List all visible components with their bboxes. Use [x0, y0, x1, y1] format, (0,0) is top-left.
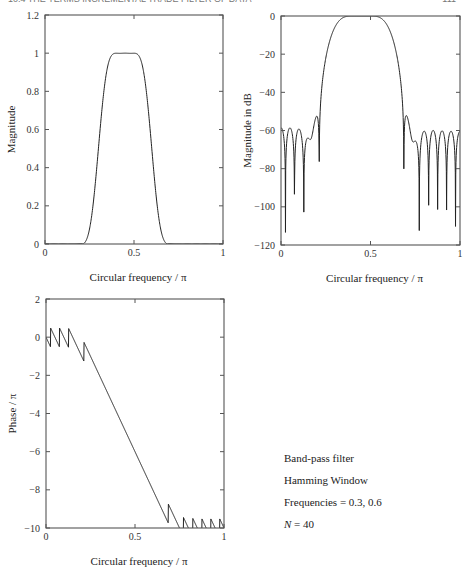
- x-tick-label: 0.5: [128, 247, 141, 258]
- annotation-frequencies: Frequencies = 0.3, 0.6: [284, 496, 382, 508]
- magnitude-y-axis-label: Magnitude: [5, 106, 17, 154]
- y-tick-label: −8: [29, 484, 40, 495]
- y-tick-label: −60: [259, 125, 275, 136]
- magnitude-db-chart: 00.510−20−40−60−80−100−120Circular frequ…: [241, 11, 463, 285]
- annotation-filter-type: Band-pass filter: [284, 452, 354, 464]
- x-tick-label: 1: [221, 247, 226, 258]
- y-tick-label: 0.2: [27, 200, 40, 211]
- y-tick-label: 0: [34, 239, 39, 250]
- phase-plot-frame: [46, 299, 224, 528]
- phase-x-axis-label: Circular frequency / π: [91, 555, 188, 567]
- annotation-order: N = 40: [284, 518, 314, 530]
- y-tick-label: 0.4: [27, 162, 40, 173]
- y-tick-label: −40: [259, 87, 275, 98]
- phase-y-axis-label: Phase / π: [6, 393, 18, 433]
- y-tick-label: −80: [259, 163, 275, 174]
- x-tick-label: 0.5: [129, 531, 142, 542]
- magnitude-curve: [45, 53, 223, 244]
- magnitude-db-x-axis-label: Circular frequency / π: [326, 272, 423, 284]
- figure-canvas: 00.5100.20.40.60.811.2Circular frequency…: [0, 0, 466, 575]
- y-tick-label: 0.6: [27, 124, 40, 135]
- y-tick-label: −2: [29, 370, 40, 381]
- y-tick-label: −120: [254, 240, 275, 251]
- magnitude-chart: 00.5100.20.40.60.811.2Circular frequency…: [5, 10, 226, 284]
- y-tick-label: −6: [29, 446, 40, 457]
- y-tick-label: −10: [24, 523, 40, 534]
- y-tick-label: −20: [259, 49, 275, 60]
- y-tick-label: 0: [270, 11, 275, 22]
- phase-curve: [46, 328, 224, 537]
- magnitude-db-curve: [281, 16, 460, 232]
- x-tick-label: 1: [458, 248, 463, 259]
- annotation-window: Hamming Window: [284, 474, 368, 486]
- y-tick-label: 1: [34, 48, 39, 59]
- y-tick-label: −4: [29, 408, 40, 419]
- phase-chart: 00.5120−2−4−6−8−10Circular frequency / π…: [6, 294, 227, 568]
- magnitude-db-y-axis-label: Magnitude in dB: [241, 93, 253, 168]
- y-tick-label: 1.2: [27, 10, 40, 21]
- magnitude-x-axis-label: Circular frequency / π: [90, 271, 187, 283]
- x-tick-label: 0: [279, 248, 284, 259]
- y-tick-label: −100: [254, 201, 275, 212]
- x-tick-label: 1: [222, 531, 227, 542]
- y-tick-label: 0.8: [27, 86, 40, 97]
- x-tick-label: 0: [43, 247, 48, 258]
- x-tick-label: 0: [44, 531, 49, 542]
- magnitude-plot-frame: [45, 15, 223, 244]
- y-tick-label: 0: [35, 332, 40, 343]
- y-tick-label: 2: [35, 294, 40, 305]
- x-tick-label: 0.5: [364, 248, 377, 259]
- n-value: = 40: [291, 518, 314, 530]
